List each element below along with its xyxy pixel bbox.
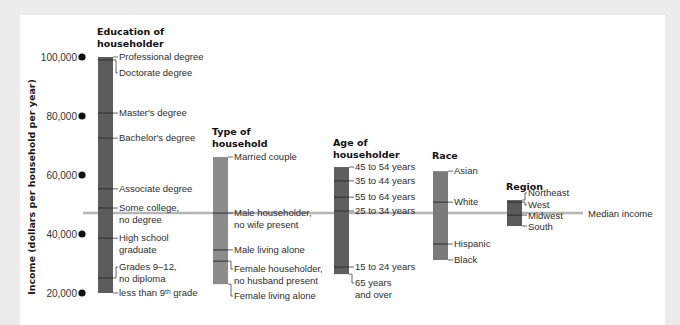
y-tick-dot-icon <box>78 171 85 178</box>
category-label: Male householder, <box>234 207 312 218</box>
income-range-chart: Income (dollars per household per year)1… <box>0 0 680 325</box>
y-tick-dot-icon <box>78 289 85 296</box>
category-label: 25 to 34 years <box>355 205 415 216</box>
y-tick-label: 80,000 <box>46 111 77 122</box>
y-tick-label: 60,000 <box>46 170 77 181</box>
group-title-type-of-household: Type of <box>212 126 252 137</box>
y-tick-label: 40,000 <box>46 229 77 240</box>
bar-region <box>507 200 522 226</box>
group-title-education: Education of <box>97 26 165 37</box>
category-label: High school <box>119 232 169 243</box>
category-label: Master's degree <box>119 107 187 118</box>
category-label: graduate <box>119 244 157 255</box>
category-label: Grades 9–12, <box>119 261 177 272</box>
category-label: Married couple <box>234 151 297 162</box>
category-label: and over <box>355 289 392 300</box>
category-label: Bachelor's degree <box>119 132 195 143</box>
group-title-education: householder <box>97 38 164 49</box>
category-label: White <box>454 196 478 207</box>
category-label: 45 to 54 years <box>355 161 415 172</box>
category-label: 65 years <box>355 277 392 288</box>
category-label: Male living alone <box>234 244 305 255</box>
median-income-label: Median income <box>588 208 652 219</box>
category-label: less than 9ᵗʰ grade <box>119 287 198 298</box>
category-label: Black <box>454 254 477 265</box>
group-title-race: Race <box>432 150 458 161</box>
y-tick-dot-icon <box>78 230 85 237</box>
category-label: Associate degree <box>119 183 192 194</box>
category-label: Professional degree <box>119 51 204 62</box>
category-label: Female householder, <box>234 263 323 274</box>
bar-education <box>98 57 113 293</box>
category-label: Doctorate degree <box>119 67 192 78</box>
chart-canvas: Income (dollars per household per year)1… <box>0 0 680 325</box>
y-tick-dot-icon <box>78 112 85 119</box>
category-label: West <box>528 199 550 210</box>
bar-race <box>433 171 448 260</box>
group-title-type-of-household: household <box>212 138 268 149</box>
bar-type-of-household <box>213 157 228 284</box>
category-label: Northeast <box>528 187 570 198</box>
category-label: 55 to 64 years <box>355 191 415 202</box>
category-label: 15 to 24 years <box>355 261 415 272</box>
category-label: no wife present <box>234 219 299 230</box>
y-tick-label: 100,000 <box>41 52 78 63</box>
group-title-age: householder <box>333 149 400 160</box>
category-label: Female living alone <box>234 290 316 301</box>
bar-age <box>334 167 349 274</box>
category-label: 35 to 44 years <box>355 175 415 186</box>
y-tick-label: 20,000 <box>46 288 77 299</box>
category-label: Asian <box>454 165 478 176</box>
category-label: Some college, <box>119 202 179 213</box>
category-label: no degree <box>119 214 162 225</box>
group-title-age: Age of <box>333 137 368 148</box>
category-label: Hispanic <box>454 238 491 249</box>
y-axis-label: Income (dollars per household per year) <box>26 79 37 295</box>
category-label: no diploma <box>119 273 166 284</box>
category-label: Midwest <box>528 210 563 221</box>
category-label: no husband present <box>234 275 318 286</box>
y-tick-dot-icon <box>78 53 85 60</box>
category-label: South <box>528 221 553 232</box>
